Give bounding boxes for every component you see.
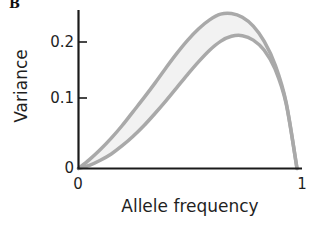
variance-band (79, 13, 298, 168)
plot-area (0, 0, 312, 225)
figure-panel-b: B Variance Allele frequency 0.2 0.1 0 0 … (0, 0, 312, 225)
band-fill-path (79, 13, 298, 168)
